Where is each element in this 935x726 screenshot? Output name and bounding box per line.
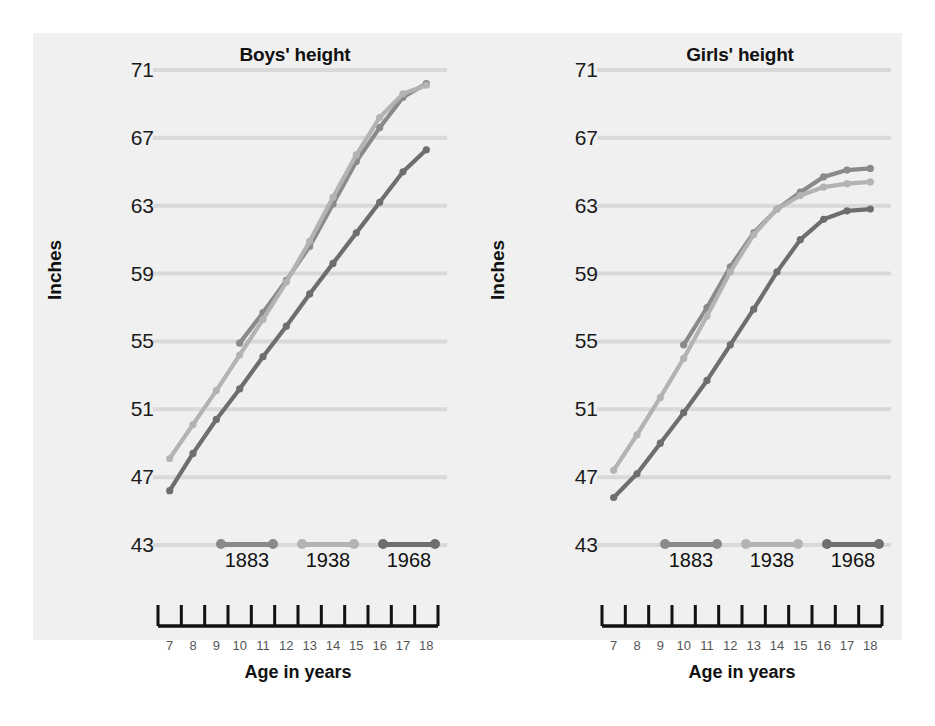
- data-point: [867, 178, 874, 185]
- y-tick-label: 71: [108, 59, 154, 80]
- data-point: [213, 387, 220, 394]
- y-tick-label: 59: [552, 263, 598, 284]
- data-point: [423, 146, 430, 153]
- data-point: [399, 168, 406, 175]
- data-point: [399, 90, 406, 97]
- data-point: [236, 351, 243, 358]
- data-point: [680, 341, 687, 348]
- y-tick-label: 47: [552, 466, 598, 487]
- chart-boys-height: Boys' height Inches 7167635955514743 789…: [0, 0, 467, 726]
- data-point: [680, 409, 687, 416]
- y-tick-label: 67: [552, 127, 598, 148]
- data-point: [376, 199, 383, 206]
- legend-marker-dot-icon: [741, 539, 751, 549]
- plot-svg-girls: [602, 70, 882, 545]
- data-point: [797, 236, 804, 243]
- legend-marker-dot-icon: [297, 539, 307, 549]
- data-point: [189, 450, 196, 457]
- legend-item-1938: 1938: [291, 535, 365, 571]
- data-point: [259, 353, 266, 360]
- plot-svg-boys: [158, 70, 438, 545]
- y-axis-label-boys: Inches: [44, 240, 66, 300]
- legend-item-1883: 1883: [654, 535, 728, 571]
- data-point: [843, 166, 850, 173]
- legend-item-1968: 1968: [816, 535, 890, 571]
- data-point: [353, 151, 360, 158]
- y-tick-label: 59: [108, 263, 154, 284]
- y-tick-label: 43: [552, 534, 598, 555]
- legend-label: 1883: [654, 550, 728, 571]
- data-point: [213, 416, 220, 423]
- series-line-1968: [170, 150, 427, 491]
- legend-line-icon: [745, 542, 799, 547]
- legend-line-icon: [382, 542, 436, 547]
- data-point: [867, 165, 874, 172]
- plot-area-girls: [602, 70, 882, 545]
- legend-line-icon: [664, 542, 718, 547]
- legend-swatch-1938: [297, 539, 359, 549]
- legend-label: 1938: [735, 550, 809, 571]
- chart-title-boys: Boys' height: [140, 44, 450, 66]
- data-point: [820, 216, 827, 223]
- legend-swatch-1883: [216, 539, 278, 549]
- legend-marker-dot-icon: [378, 539, 388, 549]
- legend-marker-dot-icon: [874, 539, 884, 549]
- x-axis-ruler: [592, 600, 892, 634]
- data-point: [189, 421, 196, 428]
- x-axis-label-boys: Age in years: [148, 662, 448, 683]
- legend-swatch-1968: [378, 539, 440, 549]
- legend-marker-dot-icon: [216, 539, 226, 549]
- data-point: [610, 467, 617, 474]
- data-point: [610, 494, 617, 501]
- data-point: [680, 355, 687, 362]
- legend-line-icon: [220, 542, 274, 547]
- data-point: [633, 470, 640, 477]
- data-point: [633, 431, 640, 438]
- data-point: [376, 114, 383, 121]
- y-tick-label: 43: [108, 534, 154, 555]
- data-point: [703, 312, 710, 319]
- series-line-1883: [684, 168, 871, 344]
- chart-title-girls: Girls' height: [585, 44, 895, 66]
- data-point: [727, 341, 734, 348]
- data-point: [306, 290, 313, 297]
- data-point: [657, 394, 664, 401]
- legend-line-icon: [826, 542, 880, 547]
- y-tick-label: 67: [108, 127, 154, 148]
- legend-line-icon: [301, 542, 355, 547]
- data-point: [657, 440, 664, 447]
- data-point: [843, 207, 850, 214]
- legend-item-1938: 1938: [735, 535, 809, 571]
- data-point: [306, 238, 313, 245]
- data-point: [867, 206, 874, 213]
- legend-swatch-1883: [660, 539, 722, 549]
- data-point: [773, 206, 780, 213]
- data-point: [773, 268, 780, 275]
- data-point: [423, 82, 430, 89]
- legend-marker-dot-icon: [822, 539, 832, 549]
- legend-marker-dot-icon: [268, 539, 278, 549]
- y-tick-label: 51: [108, 398, 154, 419]
- legend-label: 1938: [291, 550, 365, 571]
- y-tick-label: 63: [108, 195, 154, 216]
- data-point: [166, 455, 173, 462]
- data-point: [236, 340, 243, 347]
- y-tick-label: 47: [108, 466, 154, 487]
- legend-marker-dot-icon: [660, 539, 670, 549]
- data-point: [750, 231, 757, 238]
- y-tick-label: 51: [552, 398, 598, 419]
- legend-label: 1968: [816, 550, 890, 571]
- legend-label: 1883: [210, 550, 284, 571]
- legend-marker-dot-icon: [712, 539, 722, 549]
- plot-area-boys: [158, 70, 438, 545]
- legend-marker-dot-icon: [349, 539, 359, 549]
- y-tick-label: 55: [108, 330, 154, 351]
- data-point: [820, 183, 827, 190]
- legend-item-1883: 1883: [210, 535, 284, 571]
- data-point: [283, 323, 290, 330]
- y-axis-label-girls: Inches: [487, 240, 509, 300]
- data-point: [166, 487, 173, 494]
- data-point: [843, 180, 850, 187]
- legend-marker-dot-icon: [793, 539, 803, 549]
- legend-swatch-1968: [822, 539, 884, 549]
